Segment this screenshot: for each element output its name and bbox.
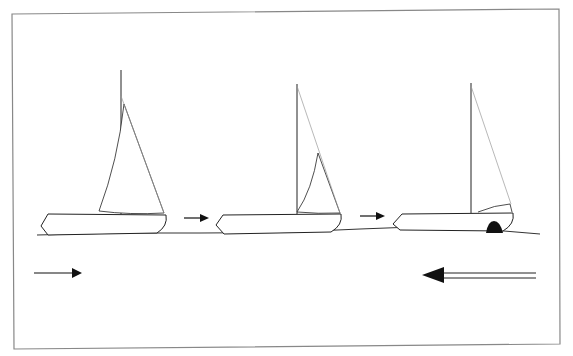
- boat-1-hull: [41, 214, 166, 235]
- sailboat-diagram: [0, 0, 573, 356]
- diagram-frame: [12, 9, 560, 349]
- boat-2-hull: [216, 214, 341, 234]
